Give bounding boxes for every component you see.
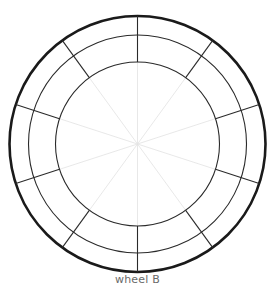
segment-divider: [62, 210, 89, 247]
guide-line: [89, 78, 137, 144]
guide-line: [138, 144, 186, 210]
segment-divider: [186, 40, 213, 77]
segment-divider: [62, 40, 89, 77]
segment-divider: [186, 210, 213, 247]
guide-line: [60, 144, 138, 169]
guide-line: [138, 78, 186, 144]
guide-line: [89, 144, 137, 210]
segment-divider: [215, 104, 259, 118]
segment-divider: [16, 104, 60, 118]
segment-divider: [215, 169, 259, 183]
guide-line: [138, 119, 216, 144]
guide-line: [60, 119, 138, 144]
wheel-caption: wheel B: [0, 273, 271, 286]
segment-divider: [16, 169, 60, 183]
guide-line: [138, 144, 216, 169]
center-guide-lines: [60, 62, 216, 226]
color-wheel-diagram: [0, 0, 271, 288]
